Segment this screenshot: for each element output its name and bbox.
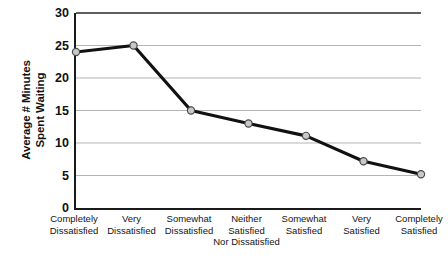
- x-axis-tick-label-line: Nor Dissatisfied: [205, 236, 289, 248]
- gridlines: [76, 13, 421, 176]
- data-line: [76, 46, 421, 175]
- x-axis-tick-label: CompletelySatisfied: [377, 213, 448, 236]
- y-axis-tick-label: 10: [43, 137, 69, 150]
- data-point-marker: [130, 42, 137, 49]
- x-axis-tick-labels: CompletelyDissatisfiedVeryDissatisfiedSo…: [74, 213, 419, 263]
- data-point-marker: [302, 132, 309, 139]
- plot-svg: [76, 13, 421, 208]
- data-point-marker: [187, 107, 194, 114]
- y-axis-tick-label: 15: [43, 104, 69, 117]
- y-axis-tick-label: 5: [43, 169, 69, 182]
- y-axis-tick-label: 20: [43, 72, 69, 85]
- x-axis-tick-label-line: Completely: [377, 213, 448, 225]
- plot-area: [74, 13, 421, 210]
- data-point-marker: [72, 48, 79, 55]
- y-axis-tick-label: 25: [43, 39, 69, 52]
- x-axis-tick-label-line: Satisfied: [377, 225, 448, 237]
- y-axis-title-line-1: Average # Minutes: [19, 60, 33, 160]
- data-markers: [72, 42, 424, 178]
- data-point-marker: [360, 158, 367, 165]
- data-point-marker: [245, 120, 252, 127]
- y-axis-tick-label: 30: [43, 7, 69, 20]
- data-point-marker: [417, 171, 424, 178]
